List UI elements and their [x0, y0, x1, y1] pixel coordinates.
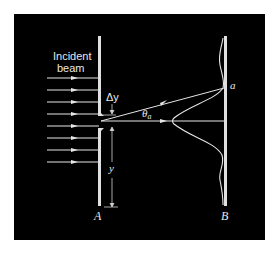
incident-label-line2: beam	[57, 62, 85, 74]
point-a-label: a	[230, 79, 236, 91]
slit-wall-label: A	[93, 209, 102, 223]
delta-y-label: Δy	[106, 91, 119, 103]
single-slit-diffraction-diagram: Incident beam Δy y θa a A B	[0, 0, 277, 253]
incident-label-line1: Incident	[53, 50, 92, 62]
diagram-background	[14, 14, 265, 240]
screen-b	[224, 36, 227, 206]
y-label: y	[108, 162, 114, 174]
screen-label: B	[221, 209, 229, 223]
